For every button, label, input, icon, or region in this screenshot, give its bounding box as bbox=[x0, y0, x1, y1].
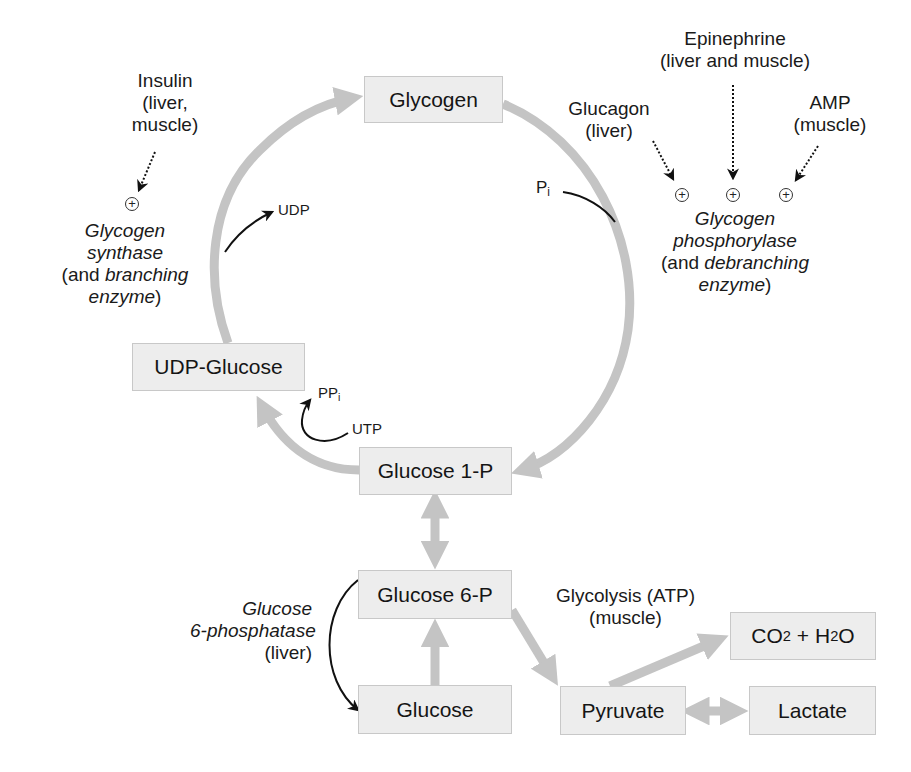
arrow-udp-release bbox=[225, 212, 272, 252]
phosphorylase-line1: Glycogen bbox=[695, 208, 775, 229]
regulator-amp: AMP (muscle) bbox=[780, 92, 880, 136]
node-co2-h2o: CO2 + H2O bbox=[730, 612, 876, 660]
amp-name: AMP bbox=[780, 92, 880, 114]
synthase-branching: branching bbox=[105, 264, 188, 285]
insulin-tissue-1: (liver, bbox=[115, 92, 215, 114]
h2o-subscript: 2 bbox=[830, 628, 838, 644]
regulator-epinephrine: Epinephrine (liver and muscle) bbox=[630, 28, 840, 72]
pathway-glycolysis: Glycolysis (ATP) (muscle) bbox=[533, 585, 718, 629]
node-glucose: Glucose bbox=[358, 685, 512, 734]
phosphorylase-enzyme: enzyme bbox=[699, 274, 766, 295]
co2-text: CO bbox=[751, 624, 783, 648]
node-glucose-1p: Glucose 1-P bbox=[359, 447, 512, 495]
co2-subscript: 2 bbox=[783, 628, 791, 644]
phosphorylase-debranching: debranching bbox=[704, 252, 809, 273]
activation-plus-icon: + bbox=[779, 188, 793, 202]
cofactor-ppi: PPi bbox=[318, 384, 340, 403]
pi-p: P bbox=[536, 178, 547, 197]
activation-plus-icon: + bbox=[726, 188, 740, 202]
node-udp-glucose: UDP-Glucose bbox=[132, 343, 305, 391]
activation-plus-icon: + bbox=[675, 188, 689, 202]
arrow-glycogen-to-glucose1p bbox=[503, 104, 630, 470]
enzyme-glycogen-synthase: Glycogen synthase (and branching enzyme) bbox=[30, 220, 220, 308]
dotted-arrow-amp bbox=[796, 146, 818, 180]
g6pase-tissue: (liver) bbox=[190, 642, 312, 664]
enzyme-glycogen-phosphorylase: Glycogen phosphorylase (and debranching … bbox=[640, 208, 830, 296]
node-glucose-6p: Glucose 6-P bbox=[358, 570, 512, 619]
node-lactate: Lactate bbox=[749, 686, 876, 735]
synthase-line3-prefix: (and bbox=[62, 264, 105, 285]
ppi-pp: PP bbox=[318, 384, 338, 401]
cofactor-pi: Pi bbox=[536, 178, 550, 199]
activation-plus-icon: + bbox=[125, 197, 139, 211]
enzyme-glucose-6-phosphatase: Glucose 6-phosphatase (liver) bbox=[190, 598, 312, 664]
glucagon-name: Glucagon bbox=[559, 98, 659, 120]
glucagon-tissue: (liver) bbox=[559, 120, 659, 142]
cofactor-utp: UTP bbox=[352, 420, 382, 437]
cofactor-udp: UDP bbox=[278, 201, 310, 218]
synthase-enzyme: enzyme bbox=[89, 286, 156, 307]
epinephrine-name: Epinephrine bbox=[630, 28, 840, 50]
arrow-g6pase bbox=[330, 580, 359, 710]
ppi-subscript: i bbox=[338, 391, 340, 403]
regulator-glucagon: Glucagon (liver) bbox=[559, 98, 659, 142]
node-glycogen: Glycogen bbox=[364, 76, 503, 123]
node-pyruvate: Pyruvate bbox=[560, 686, 686, 735]
synthase-suffix: ) bbox=[155, 286, 161, 307]
insulin-name: Insulin bbox=[115, 70, 215, 92]
dotted-arrow-insulin bbox=[139, 152, 155, 190]
phosphorylase-line2: phosphorylase bbox=[673, 230, 797, 251]
glycolysis-label: Glycolysis (ATP) bbox=[533, 585, 718, 607]
g6pase-line1: Glucose bbox=[242, 598, 312, 619]
epinephrine-tissue: (liver and muscle) bbox=[630, 50, 840, 72]
phosphorylase-suffix: ) bbox=[765, 274, 771, 295]
pi-subscript: i bbox=[547, 185, 550, 199]
h2o-o-text: O bbox=[838, 624, 854, 648]
synthase-line2: synthase bbox=[87, 242, 163, 263]
g6pase-line2: 6-phosphatase bbox=[190, 620, 316, 641]
h2o-text: + H bbox=[791, 624, 830, 648]
amp-tissue: (muscle) bbox=[780, 114, 880, 136]
dotted-arrow-glucagon bbox=[653, 141, 673, 179]
arrow-utp-ppi bbox=[302, 400, 348, 441]
synthase-line1: Glycogen bbox=[85, 220, 165, 241]
arrow-udpglucose-to-glycogen bbox=[214, 98, 352, 343]
phosphorylase-line3-prefix: (and bbox=[661, 252, 704, 273]
arrow-pyruvate-to-co2 bbox=[610, 640, 718, 686]
regulator-insulin: Insulin (liver, muscle) bbox=[115, 70, 215, 136]
insulin-tissue-2: muscle) bbox=[115, 114, 215, 136]
glycolysis-tissue: (muscle) bbox=[533, 607, 718, 629]
